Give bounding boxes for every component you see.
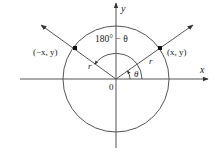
radius-label-right: r — [149, 56, 153, 66]
radius-label-left: r — [88, 61, 92, 71]
diagram-canvas: y x 0 180° − θ θ (−x, y) (x, y) r r — [0, 0, 221, 153]
x-axis-label: x — [199, 64, 205, 75]
origin-label: 0 — [109, 82, 114, 92]
supplement-angle-label: 180° − θ — [95, 34, 128, 44]
point-quadrant-1 — [158, 46, 162, 50]
point-label-quadrant-1: (x, y) — [167, 47, 187, 57]
theta-angle-arc — [128, 71, 131, 79]
point-label-quadrant-2: (−x, y) — [33, 47, 58, 57]
theta-label: θ — [134, 69, 139, 79]
y-axis-label: y — [120, 3, 126, 14]
point-quadrant-2 — [73, 46, 77, 50]
